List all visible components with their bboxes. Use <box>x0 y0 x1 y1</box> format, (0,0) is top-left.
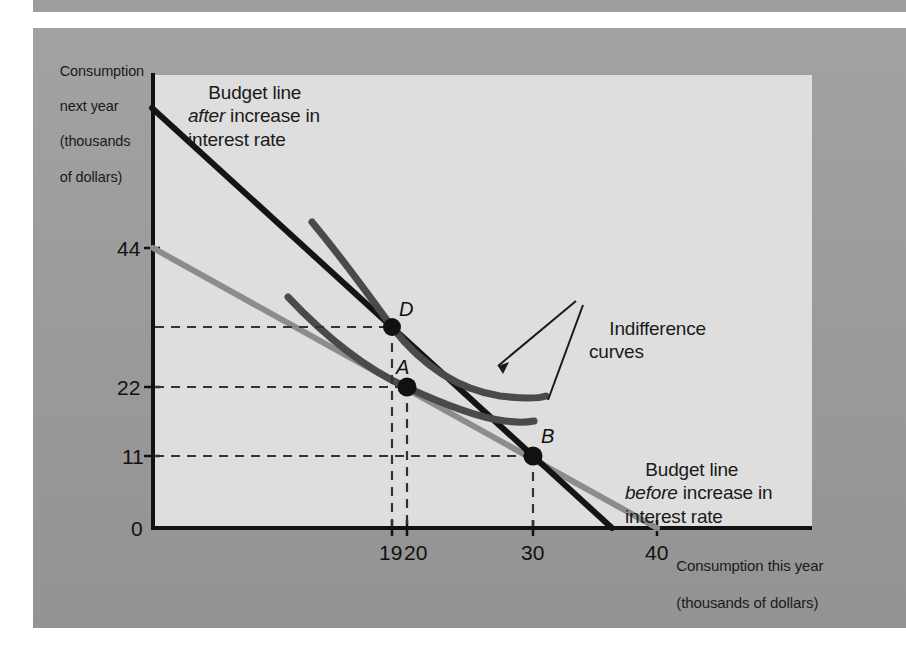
callout-before-emphasis: before <box>625 482 678 503</box>
y-tick-label-0: 0 <box>131 516 143 542</box>
callout-before-line-3: interest rate <box>625 506 723 527</box>
callout-after-line-2-rest: increase in <box>225 105 320 126</box>
callout-indifference-line-1: Indifference <box>609 318 706 339</box>
x-tick-label-30: 30 <box>521 540 544 566</box>
indifference-curve-upper <box>312 222 546 398</box>
point-marker-a <box>398 378 417 397</box>
x-tick-label-19: 19 <box>379 540 402 566</box>
callout-after-line-3: interest rate <box>188 129 286 150</box>
callout-budget-line-after: Budget lineafter increase ininterest rat… <box>188 58 320 174</box>
y-axis-title-line-4: of dollars) <box>60 169 123 185</box>
point-label-d: D <box>399 297 413 321</box>
y-axis-title: Consumption next year (thousands of doll… <box>44 45 154 204</box>
callout-after-line-1: Budget line <box>208 82 301 103</box>
callout-after-emphasis: after <box>188 105 225 126</box>
figure-page: Consumption next year (thousands of doll… <box>0 0 906 654</box>
indifference-arrows <box>498 301 583 400</box>
callout-before-line-2-rest: increase in <box>678 482 773 503</box>
y-tick-label-22: 22 <box>117 375 140 401</box>
x-tick-label-20: 20 <box>404 540 427 566</box>
point-label-a: A <box>396 355 409 379</box>
y-axis-title-line-1: Consumption <box>60 63 144 79</box>
callout-indifference-curves: Indifferencecurves <box>589 294 706 387</box>
x-axis-title-line-1: Consumption this year <box>676 557 823 574</box>
x-axis-title: Consumption this year (thousands of doll… <box>660 539 880 630</box>
point-label-b: B <box>541 424 554 448</box>
y-tick-label-44: 44 <box>117 236 140 262</box>
callout-before-line-1: Budget line <box>645 459 738 480</box>
y-axis-title-line-2: next year <box>60 98 119 114</box>
x-tick-label-40: 40 <box>645 540 668 566</box>
callout-budget-line-before: Budget linebefore increase ininterest ra… <box>625 435 772 551</box>
x-axis-title-line-2: (thousands of dollars) <box>676 594 818 611</box>
point-marker-b <box>524 447 543 466</box>
y-tick-label-11: 11 <box>122 444 144 470</box>
callout-indifference-line-2: curves <box>589 341 644 362</box>
y-axis-title-line-3: (thousands <box>60 133 131 149</box>
